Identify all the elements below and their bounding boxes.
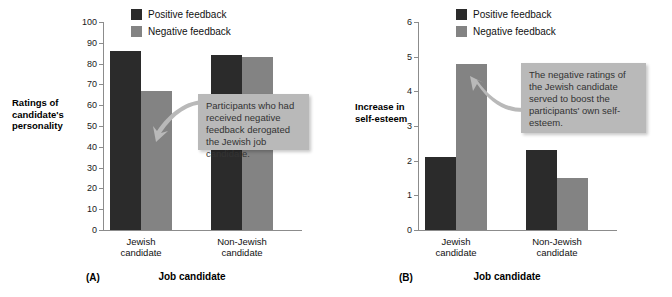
x-category-line: Non-Jewish bbox=[517, 236, 597, 247]
y-tick-label-a: 60 bbox=[73, 101, 97, 110]
x-category-line: candidate bbox=[416, 247, 496, 258]
x-category-label-nonjewish-a: Non-Jewish candidate bbox=[202, 236, 282, 258]
y-tick-b bbox=[414, 91, 418, 92]
y-tick-a bbox=[99, 22, 103, 23]
x-category-label-jewish-a: Jewish candidate bbox=[101, 236, 181, 258]
legend-swatch-negative-icon bbox=[456, 26, 467, 37]
y-tick-b bbox=[414, 126, 418, 127]
legend-swatch-positive-icon bbox=[456, 9, 467, 20]
legend-label-positive: Positive feedback bbox=[473, 8, 551, 21]
y-tick-label-b: 4 bbox=[388, 87, 412, 96]
y-tick-label-a: 10 bbox=[73, 205, 97, 214]
y-tick-a bbox=[99, 126, 103, 127]
y-tick-label-b: 5 bbox=[388, 53, 412, 62]
x-category-line: candidate bbox=[202, 247, 282, 258]
y-tick-label-a: 70 bbox=[73, 80, 97, 89]
panel-letter-a: (A) bbox=[86, 272, 100, 283]
bar-b-nonjewish-negative bbox=[557, 178, 588, 230]
y-tick-label-a: 20 bbox=[73, 184, 97, 193]
y-tick-a bbox=[99, 188, 103, 189]
y-tick-label-b: 0 bbox=[388, 226, 412, 235]
x-category-line: Non-Jewish bbox=[202, 236, 282, 247]
x-category-label-jewish-b: Jewish candidate bbox=[416, 236, 496, 258]
callout-b-text: The negative ratings of the Jewish candi… bbox=[529, 69, 626, 128]
y-axis-line-b bbox=[418, 22, 419, 231]
y-tick-b bbox=[414, 161, 418, 162]
figure-root: Ratings of candidate's personality 100 9… bbox=[0, 0, 672, 297]
chart-panel-b: Increase in self-esteem 6 5 4 3 2 1 0 bbox=[336, 0, 672, 297]
y-tick-label-b: 1 bbox=[388, 191, 412, 200]
plot-area-b: 6 5 4 3 2 1 0 Positi bbox=[336, 0, 672, 297]
y-tick-b bbox=[414, 22, 418, 23]
x-axis-line-a bbox=[103, 230, 302, 231]
y-tick-b bbox=[414, 195, 418, 196]
x-axis-title-b: Job candidate bbox=[427, 271, 587, 282]
y-tick-label-a: 90 bbox=[73, 39, 97, 48]
y-tick-a bbox=[99, 147, 103, 148]
y-tick-label-a: 0 bbox=[73, 226, 97, 235]
y-tick-b bbox=[414, 230, 418, 231]
callout-arrow-b-icon bbox=[463, 72, 525, 114]
y-tick-a bbox=[99, 64, 103, 65]
chart-panel-a: Ratings of candidate's personality 100 9… bbox=[0, 0, 336, 297]
bar-b-jewish-positive bbox=[425, 157, 456, 230]
plot-area-a: 100 90 80 70 60 50 40 30 20 10 0 bbox=[0, 0, 336, 297]
legend-label-negative: Negative feedback bbox=[148, 25, 231, 38]
x-category-label-nonjewish-b: Non-Jewish candidate bbox=[517, 236, 597, 258]
y-tick-b bbox=[414, 57, 418, 58]
y-tick-label-a: 40 bbox=[73, 143, 97, 152]
x-category-line: Jewish bbox=[416, 236, 496, 247]
x-axis-title-a: Job candidate bbox=[112, 271, 272, 282]
y-tick-label-b: 6 bbox=[388, 18, 412, 27]
y-tick-a bbox=[99, 43, 103, 44]
y-tick-label-a: 80 bbox=[73, 60, 97, 69]
x-category-line: Jewish bbox=[101, 236, 181, 247]
x-axis-line-b bbox=[418, 230, 617, 231]
x-category-line: candidate bbox=[101, 247, 181, 258]
legend-swatch-negative-icon bbox=[131, 26, 142, 37]
y-tick-a bbox=[99, 209, 103, 210]
x-category-line: candidate bbox=[517, 247, 597, 258]
y-tick-label-a: 50 bbox=[73, 122, 97, 131]
bar-a-jewish-positive bbox=[110, 51, 141, 230]
y-tick-a bbox=[99, 230, 103, 231]
panel-letter-b: (B) bbox=[399, 272, 413, 283]
legend-swatch-positive-icon bbox=[131, 9, 142, 20]
y-tick-label-a: 100 bbox=[73, 18, 97, 27]
legend-label-positive: Positive feedback bbox=[148, 8, 226, 21]
callout-a: Participants who had received negative f… bbox=[198, 94, 309, 150]
y-tick-label-a: 30 bbox=[73, 164, 97, 173]
y-tick-a bbox=[99, 105, 103, 106]
legend-label-negative: Negative feedback bbox=[473, 25, 556, 38]
y-tick-label-b: 3 bbox=[388, 122, 412, 131]
y-tick-a bbox=[99, 168, 103, 169]
y-axis-line-a bbox=[103, 22, 104, 231]
callout-b: The negative ratings of the Jewish candi… bbox=[521, 63, 646, 133]
bar-b-nonjewish-positive bbox=[526, 150, 557, 230]
callout-arrow-a-icon bbox=[148, 100, 208, 145]
y-tick-a bbox=[99, 84, 103, 85]
y-tick-label-b: 2 bbox=[388, 157, 412, 166]
